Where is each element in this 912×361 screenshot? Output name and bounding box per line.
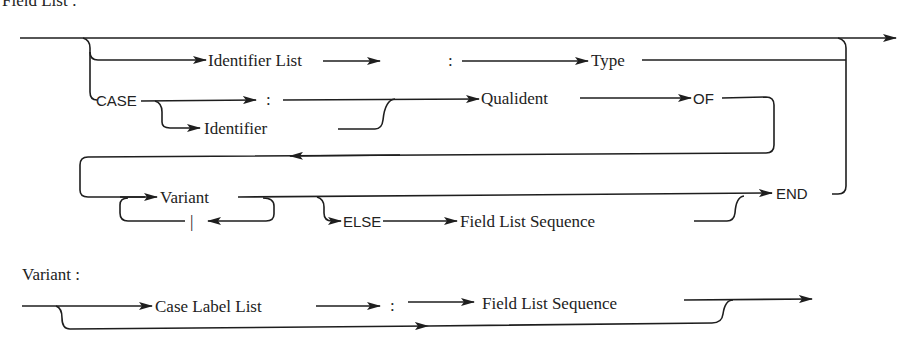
- node-colon: :: [390, 296, 395, 315]
- node-end: END: [776, 185, 808, 202]
- node-identifier-list: Identifier List: [208, 51, 302, 70]
- right-branch: [832, 38, 846, 194]
- node-case: CASE: [96, 92, 137, 109]
- node-colon-2: :: [266, 90, 271, 109]
- arrow-to-identifier-list: [90, 52, 206, 60]
- node-field-list-sequence-2: Field List Sequence: [482, 294, 617, 313]
- else-join: [694, 196, 744, 221]
- node-else: ELSE: [343, 213, 381, 230]
- arrow-to-else: [317, 197, 341, 221]
- syntax-diagram-canvas: Field List : Identifier List : Type CASE…: [0, 0, 912, 361]
- variant-diagram: Variant : Case Label List : Field List S…: [22, 265, 812, 329]
- node-qualident: Qualident: [481, 89, 548, 108]
- return-arrow: [290, 155, 400, 156]
- variant-repeat-arrow: [208, 198, 274, 221]
- variant-title: Variant :: [22, 265, 80, 284]
- arrow-to-qualident: [283, 99, 479, 100]
- arrow-to-colon2: [141, 100, 256, 101]
- left-branch: [83, 38, 97, 100]
- node-bar: |: [190, 212, 193, 231]
- exit-arrow: [684, 299, 812, 300]
- node-type: Type: [591, 51, 625, 70]
- node-colon-1: :: [448, 51, 453, 70]
- node-of: OF: [693, 90, 714, 107]
- node-case-label-list: Case Label List: [155, 297, 262, 316]
- arrow-to-identifier: [155, 101, 200, 128]
- field-list-title: Field List :: [2, 0, 77, 10]
- identifier-join: [338, 99, 395, 129]
- node-identifier: Identifier: [204, 119, 268, 138]
- of-return-loop: [80, 97, 774, 197]
- variant-to-end-line: [238, 193, 772, 197]
- field-list-diagram: Field List : Identifier List : Type CASE…: [2, 0, 896, 231]
- node-field-list-sequence: Field List Sequence: [460, 212, 595, 231]
- node-variant: Variant: [160, 188, 209, 207]
